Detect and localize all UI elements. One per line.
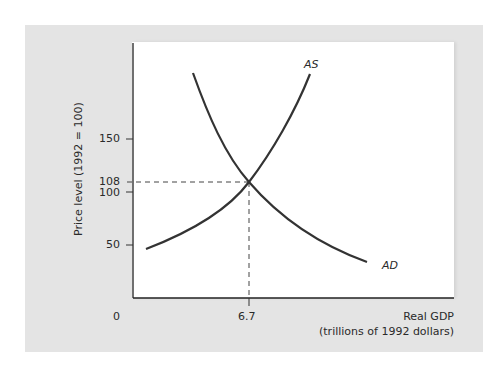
y-axis-title: Price level (1992 = 100) [72, 102, 85, 236]
y-tick-label-150: 150 [90, 133, 120, 144]
x-axis-title-line1: Real GDP [403, 310, 454, 324]
x-tick-label-6-7: 6.7 [238, 310, 256, 324]
y-tick-label-100: 100 [90, 187, 120, 198]
x-origin-label: 0 [113, 310, 120, 324]
x-axis-title-line2: (trillions of 1992 dollars) [319, 325, 454, 339]
as-curve [146, 74, 310, 249]
y-tick-label-50: 50 [90, 239, 120, 250]
ad-curve [193, 73, 367, 262]
ad-label: AD [382, 259, 398, 272]
as-label: AS [304, 58, 319, 71]
